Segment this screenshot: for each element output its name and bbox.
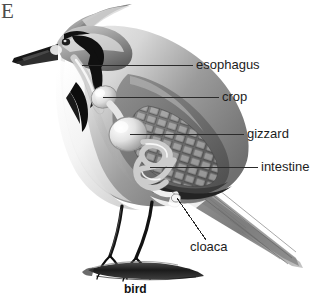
panel-letter: E <box>1 1 14 22</box>
label-crop: crop <box>222 90 247 103</box>
label-intestine: intestine <box>261 160 309 173</box>
figure-caption: bird <box>124 283 147 295</box>
figure-bird-digestive-system: E esophagus crop gizzard intestine cloac… <box>0 0 327 301</box>
label-esophagus: esophagus <box>196 58 260 71</box>
bird-illustration <box>0 0 327 301</box>
perch-branch <box>82 261 204 279</box>
label-cloaca: cloaca <box>190 240 228 253</box>
label-gizzard: gizzard <box>247 127 289 140</box>
